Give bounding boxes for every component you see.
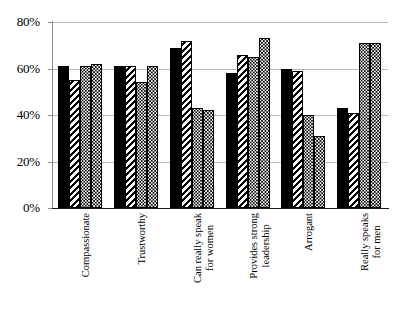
- bar: [259, 38, 270, 208]
- y-axis: 0%20%40%60%80%: [0, 0, 48, 325]
- bar: [370, 43, 381, 208]
- bar-chart: 0%20%40%60%80% CompassionateTrustworthyC…: [0, 0, 406, 325]
- bar-group: [226, 22, 270, 208]
- bar: [170, 48, 181, 208]
- bar: [203, 110, 214, 208]
- x-axis-category-line1: Provides strong: [248, 213, 259, 279]
- bar: [136, 82, 147, 208]
- x-axis-category-label: Provides strongleadership: [221, 213, 275, 323]
- bar-group: [58, 22, 102, 208]
- x-axis-category-line2: for women: [203, 213, 215, 283]
- x-axis-category-label: Trustworthy: [109, 213, 163, 323]
- bar: [226, 73, 237, 208]
- bar-group: [114, 22, 158, 208]
- bar: [337, 108, 348, 208]
- bar-group: [170, 22, 214, 208]
- x-axis-category-line1: Compassionate: [80, 213, 91, 277]
- y-axis-tick-label: 0%: [23, 200, 40, 216]
- x-axis-category-line2: for men: [371, 213, 383, 271]
- x-axis: CompassionateTrustworthyCan really speak…: [53, 209, 388, 325]
- x-axis-category-line1: Can really speak: [192, 213, 203, 283]
- x-axis-category-label: Really speaksfor men: [332, 213, 386, 323]
- x-axis-category-text: Can really speakfor women: [192, 213, 215, 283]
- y-axis-tick-label: 20%: [17, 154, 40, 170]
- bar: [58, 66, 69, 208]
- x-axis-category-text: Compassionate: [80, 213, 92, 277]
- bar: [147, 66, 158, 208]
- bar: [114, 66, 125, 208]
- x-axis-category-line1: Trustworthy: [136, 213, 147, 265]
- bar: [248, 57, 259, 208]
- x-axis-category-text: Provides strongleadership: [248, 213, 271, 279]
- bar: [359, 43, 370, 208]
- bar-group: [281, 22, 325, 208]
- x-axis-category-line1: Arrogant: [303, 213, 314, 251]
- bar: [192, 108, 203, 208]
- x-axis-category-label: Compassionate: [53, 213, 107, 323]
- bar: [303, 115, 314, 208]
- y-axis-tick-label: 40%: [17, 107, 40, 123]
- bar: [91, 64, 102, 208]
- bar-group: [337, 22, 381, 208]
- x-axis-category-text: Arrogant: [303, 213, 315, 251]
- x-axis-category-label: Can really speakfor women: [165, 213, 219, 323]
- x-axis-category-text: Really speaksfor men: [359, 213, 382, 271]
- bar: [237, 55, 248, 208]
- x-axis-category-text: Trustworthy: [136, 213, 148, 265]
- bar: [348, 113, 359, 208]
- bar: [181, 41, 192, 208]
- bar: [80, 66, 91, 208]
- bars-layer: [53, 22, 388, 208]
- bar: [292, 71, 303, 208]
- x-axis-category-line2: leadership: [259, 213, 271, 279]
- bar: [125, 66, 136, 208]
- bar: [314, 136, 325, 208]
- bar: [69, 80, 80, 208]
- bar: [281, 69, 292, 209]
- x-axis-category-line1: Really speaks: [359, 213, 370, 271]
- x-axis-category-label: Arrogant: [276, 213, 330, 323]
- y-axis-tick-label: 80%: [17, 14, 40, 30]
- y-axis-tick-label: 60%: [17, 61, 40, 77]
